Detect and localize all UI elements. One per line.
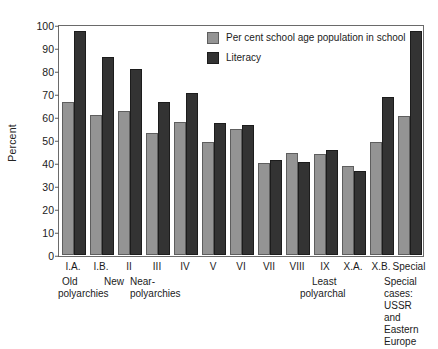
bar-III-school bbox=[146, 133, 158, 255]
caption-special-2: cases: bbox=[384, 288, 413, 301]
x-tick-Special: Special bbox=[393, 261, 426, 272]
caption-near: Near- bbox=[130, 276, 155, 289]
caption-special-6: Europe bbox=[384, 336, 416, 349]
x-tick-VII: VII bbox=[263, 261, 275, 272]
y-tick-80: 80 bbox=[42, 67, 59, 78]
x-tick-XA: X.A. bbox=[344, 261, 363, 272]
bar-group bbox=[88, 27, 116, 255]
bar-IA-school bbox=[62, 102, 74, 255]
x-tick-IX: IX bbox=[320, 261, 329, 272]
bar-Special-school bbox=[398, 116, 410, 255]
bar-group bbox=[60, 27, 88, 255]
y-tick-10: 10 bbox=[42, 228, 59, 239]
x-tick-IV: IV bbox=[180, 261, 189, 272]
bar-VI-school bbox=[230, 129, 242, 256]
x-tick-VI: VI bbox=[236, 261, 245, 272]
y-tick-40: 40 bbox=[42, 159, 59, 170]
bar-VII-literacy bbox=[270, 160, 282, 255]
bar-IB-literacy bbox=[102, 57, 114, 255]
bar-IX-school bbox=[314, 154, 326, 255]
x-tick-XB: X.B. bbox=[372, 261, 391, 272]
caption-least: Least bbox=[312, 276, 336, 289]
caption-old: Old bbox=[62, 276, 78, 289]
legend-swatch-icon-school bbox=[207, 32, 219, 44]
y-tick-20: 20 bbox=[42, 205, 59, 216]
chart-legend: Per cent school age population in school… bbox=[207, 29, 406, 69]
caption-old-2: polyarchies bbox=[58, 288, 109, 301]
y-tick-0: 0 bbox=[48, 251, 59, 262]
bar-Special-literacy bbox=[410, 31, 422, 255]
bar-XA-literacy bbox=[354, 171, 366, 255]
legend-item-literacy: Literacy bbox=[207, 49, 406, 66]
y-tick-30: 30 bbox=[42, 182, 59, 193]
x-tick-IA: I.A. bbox=[65, 261, 80, 272]
bar-group bbox=[172, 27, 200, 255]
y-tick-60: 60 bbox=[42, 113, 59, 124]
bar-VI-literacy bbox=[242, 125, 254, 255]
bar-XB-school bbox=[370, 142, 382, 255]
bar-group bbox=[116, 27, 144, 255]
x-tick-V: V bbox=[210, 261, 217, 272]
caption-special-4: and bbox=[384, 312, 401, 325]
y-tick-50: 50 bbox=[42, 136, 59, 147]
legend-item-school: Per cent school age population in school bbox=[207, 29, 406, 46]
bar-V-school bbox=[202, 142, 214, 255]
caption-special-1: Special bbox=[384, 276, 417, 289]
bar-VIII-literacy bbox=[298, 162, 310, 255]
caption-special-5: Eastern bbox=[384, 324, 418, 337]
legend-label-literacy: Literacy bbox=[226, 52, 261, 63]
x-tick-VIII: VIII bbox=[289, 261, 304, 272]
y-axis-title: Percent bbox=[6, 108, 18, 178]
x-tick-IB: I.B. bbox=[93, 261, 108, 272]
legend-label-school: Per cent school age population in school bbox=[226, 32, 406, 43]
caption-special-3: USSR bbox=[384, 300, 412, 313]
bar-IX-literacy bbox=[326, 150, 338, 255]
y-tick-90: 90 bbox=[42, 44, 59, 55]
bar-IA-literacy bbox=[74, 31, 86, 255]
bar-VIII-school bbox=[286, 153, 298, 255]
bar-IB-school bbox=[90, 115, 102, 255]
bar-V-literacy bbox=[214, 123, 226, 255]
bar-III-literacy bbox=[158, 102, 170, 255]
caption-near-2: polyarchies bbox=[130, 288, 181, 301]
legend-swatch-icon-literacy bbox=[207, 52, 219, 64]
y-tick-100: 100 bbox=[36, 21, 59, 32]
bar-VII-school bbox=[258, 163, 270, 255]
bar-IV-literacy bbox=[186, 93, 198, 255]
bar-II-school bbox=[118, 111, 130, 255]
x-tick-II: II bbox=[126, 261, 132, 272]
bar-group bbox=[144, 27, 172, 255]
bar-XB-literacy bbox=[382, 97, 394, 255]
bar-XA-school bbox=[342, 166, 354, 255]
x-tick-III: III bbox=[153, 261, 161, 272]
caption-least-2: polyarchal bbox=[300, 288, 346, 301]
bar-II-literacy bbox=[130, 69, 142, 255]
bar-IV-school bbox=[174, 122, 186, 255]
caption-new: New bbox=[104, 276, 124, 289]
y-tick-70: 70 bbox=[42, 90, 59, 101]
